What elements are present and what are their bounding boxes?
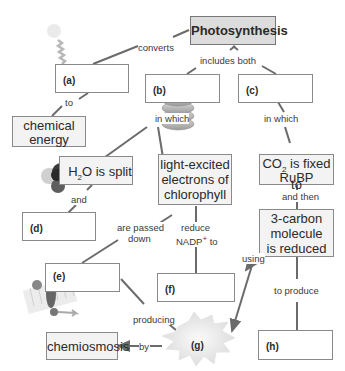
h2o-rest: O is split [82, 164, 132, 179]
title-text: Photosynthesis [191, 23, 275, 38]
h2o-h: H [68, 164, 77, 179]
node-label-g[interactable]: (g) [191, 340, 204, 351]
chemiosmosis-node: chemiosmosis [46, 332, 118, 360]
three-carbon-line3: is reduced [260, 241, 333, 256]
link-in-which-b: in which [155, 113, 189, 124]
three-carbon-line2: molecule [260, 226, 333, 241]
link-converts: converts [138, 42, 174, 53]
h2o-split-node: H2O is split [59, 156, 133, 185]
nadp-text: NADP [176, 236, 202, 247]
light-excited-line2: electrons of [159, 172, 231, 187]
link-nadp: NADP+ to [176, 233, 218, 247]
node-label-c: (c) [246, 85, 258, 96]
blank-node-d[interactable]: (d) [22, 212, 96, 241]
blank-node-b[interactable]: (b) [145, 74, 220, 103]
three-carbon-node: 3-carbon molecule is reduced [259, 209, 334, 257]
h2o-split-text: H2O is split [60, 164, 132, 185]
blank-node-e[interactable]: (e) [45, 263, 120, 292]
node-label-a: (a) [63, 75, 75, 86]
chemical-energy-line1: chemical [13, 118, 85, 133]
chemiosmosis-text: chemiosmosis [47, 339, 117, 354]
link-using: using [242, 253, 265, 264]
co2-fixed-node: CO2 is fixed to RuBP [259, 154, 334, 185]
three-carbon-line1: 3-carbon [260, 211, 333, 226]
photosynthesis-node: Photosynthesis [190, 16, 276, 45]
blank-node-f[interactable]: (f) [157, 273, 235, 302]
link-by: by [139, 341, 149, 352]
concept-map: Photosynthesis (a) (b) (c) chemical ener… [0, 0, 345, 371]
link-and-then: and then [282, 191, 319, 202]
co2-c: CO [262, 156, 282, 171]
link-producing: producing [133, 314, 175, 325]
blank-node-a[interactable]: (a) [55, 64, 129, 93]
blank-node-c[interactable]: (c) [238, 74, 313, 103]
nadp-to: to [207, 236, 218, 247]
light-excited-line3: chlorophyll [159, 187, 231, 202]
light-excited-electrons-node: light-excited electrons of chlorophyll [158, 154, 232, 205]
chemical-energy-node: chemical energy [12, 116, 86, 147]
node-label-b: (b) [153, 85, 166, 96]
link-in-which-c: in which [264, 113, 298, 124]
node-label-d: (d) [30, 223, 43, 234]
link-are-passed: are passed [117, 222, 164, 233]
link-and: and [71, 194, 87, 205]
node-label-h: (h) [266, 341, 279, 352]
node-label-e: (e) [53, 271, 65, 282]
co2-fixed-line2: RuBP [260, 170, 333, 185]
link-to: to [65, 97, 73, 108]
node-label-f: (f) [165, 284, 175, 295]
link-down: down [128, 233, 151, 244]
link-includes-both: includes both [200, 55, 256, 66]
chemical-energy-line2: energy [13, 132, 85, 147]
link-to-produce: to produce [274, 285, 319, 296]
blank-node-h[interactable]: (h) [258, 330, 333, 360]
link-reduce: reduce [181, 222, 210, 233]
light-excited-line1: light-excited [159, 157, 231, 172]
